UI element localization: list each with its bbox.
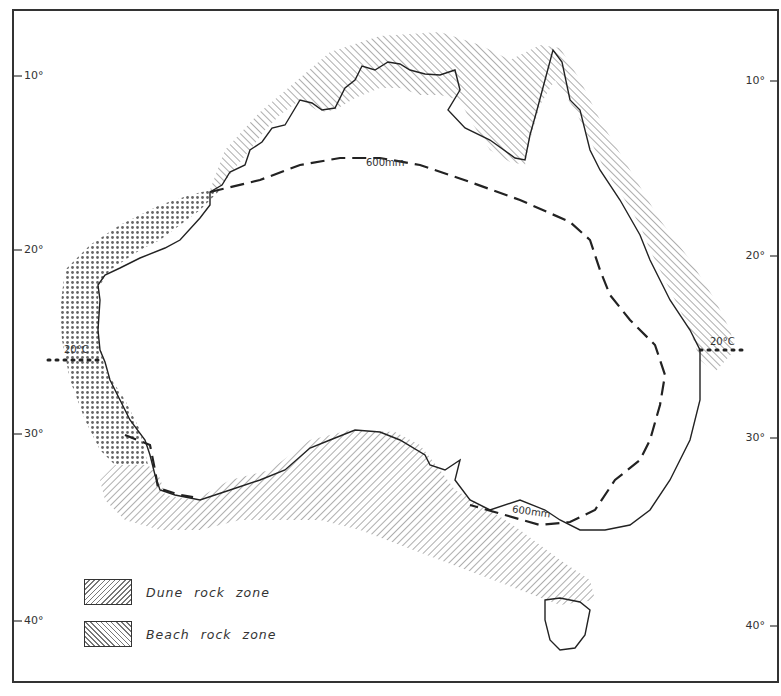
tasmania xyxy=(545,598,590,650)
lat-label-left-40: 40° xyxy=(24,615,44,626)
lat-label-left-10: 10° xyxy=(24,70,44,81)
beach-rock-zone xyxy=(210,32,735,372)
legend-item-dune-rock: Dune rock zone xyxy=(84,578,276,606)
lat-label-right-40: 40° xyxy=(746,620,766,631)
beach-hatch-swatch-icon xyxy=(84,621,132,647)
lat-label-right-20: 20° xyxy=(746,250,766,261)
dune-hatch-swatch-icon xyxy=(84,579,132,605)
lat-label-right-30: 30° xyxy=(746,432,766,443)
isotherm-label-west: 20°C xyxy=(64,345,89,355)
lat-label-left-20: 20° xyxy=(24,244,44,255)
isotherm-label-east: 20°C xyxy=(710,337,735,347)
map-legend: Dune rock zone Beach rock zone xyxy=(84,578,276,662)
lat-label-right-10: 10° xyxy=(746,75,766,86)
lat-label-left-30: 30° xyxy=(24,428,44,439)
legend-label: Beach rock zone xyxy=(146,627,276,642)
legend-label: Dune rock zone xyxy=(146,585,270,600)
dune-and-beach-rock-zone xyxy=(60,190,220,465)
legend-item-beach-rock: Beach rock zone xyxy=(84,620,276,648)
isohyet-label-north: 600mm xyxy=(366,158,405,168)
